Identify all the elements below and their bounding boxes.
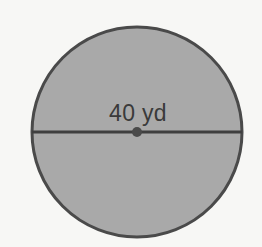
circle-diagram: 40 yd: [0, 0, 262, 247]
figure-canvas: 40 yd: [0, 0, 262, 247]
center-dot: [132, 127, 142, 137]
diameter-label: 40 yd: [109, 100, 167, 126]
